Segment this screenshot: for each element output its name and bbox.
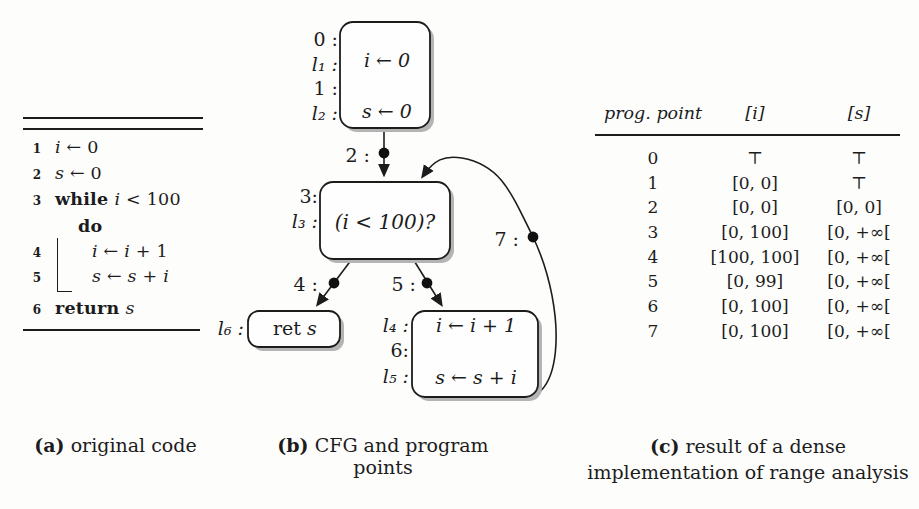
table-col-s: ⊤ ⊤ [0, 0] [0, +∞[ [0, +∞[ [0, +∞[ [0, +… <box>827 146 890 344</box>
prog-point-2-dot <box>379 148 390 159</box>
table-cell: [0, 0] <box>711 195 800 220</box>
table-cell: ⊤ <box>711 146 800 171</box>
prog-point-4-label: 4 : <box>293 273 318 295</box>
table-cell: 4 <box>648 245 659 270</box>
caption-a: (a) original code <box>18 434 213 456</box>
caption-b-text: CFG and program points <box>315 434 489 478</box>
entry-stmt-2: s ← 0 <box>362 100 412 122</box>
caption-a-text: original code <box>71 434 197 456</box>
table-cell: [0, 0] <box>711 171 800 196</box>
table-header-s: [s] <box>848 103 871 123</box>
caption-c-line1: (c) result of a dense <box>578 433 918 459</box>
caption-b: (b) CFG and program points <box>248 434 518 478</box>
caption-c-line2: implementation of range analysis <box>578 459 918 485</box>
ret-keyword: ret <box>273 317 301 339</box>
table-cell: ⊤ <box>827 171 890 196</box>
caption-c: (c) result of a dense implementation of … <box>578 433 918 485</box>
table-cell: [0, 0] <box>827 195 890 220</box>
table-cell: 2 <box>648 195 659 220</box>
table-header-rule <box>595 134 900 136</box>
table-header-prog-point: prog. point <box>604 103 702 123</box>
table-cell: 1 <box>648 171 659 196</box>
table-header-i: [i] <box>745 103 764 123</box>
prog-point-6-label: 6: <box>391 339 410 361</box>
range-analysis-table: prog. point [i] [s] 0 1 2 3 4 5 6 7 ⊤ [0… <box>575 100 919 360</box>
body-stmt-2: s ← s + i <box>435 366 517 388</box>
table-col-prog-point: 0 1 2 3 4 5 6 7 <box>648 146 659 344</box>
prog-point-4-dot <box>329 278 340 289</box>
table-cell: 6 <box>648 294 659 319</box>
body-stmt-1: i ← i + 1 <box>436 314 516 336</box>
table-cell: 7 <box>648 319 659 344</box>
table-cell: [0, +∞[ <box>827 245 890 270</box>
label-l6: l₆ : <box>218 317 244 339</box>
label-l1: l₁ : <box>312 53 338 75</box>
figure-canvas: 1 i ← 0 2 s ← 0 3 while i < 100 do 4 i ←… <box>0 0 919 509</box>
prog-point-5-label: 5 : <box>391 273 416 295</box>
table-cell: [0, 99] <box>711 269 800 294</box>
table-cell: [0, +∞[ <box>827 319 890 344</box>
cond-expr: (i < 100)? <box>335 210 436 234</box>
caption-a-label: (a) <box>34 434 64 456</box>
label-l3: l₃ : <box>292 210 318 232</box>
table-cell: ⊤ <box>827 146 890 171</box>
label-l4: l₄ : <box>383 314 409 336</box>
table-cell: [0, +∞[ <box>827 269 890 294</box>
table-cell: [0, 100] <box>711 220 800 245</box>
ret-var: s <box>307 317 317 339</box>
caption-c-text: result of a dense <box>686 435 847 457</box>
table-cell: 3 <box>648 220 659 245</box>
table-col-i: ⊤ [0, 0] [0, 0] [0, 100] [100, 100] [0, … <box>711 146 800 344</box>
prog-point-5-dot <box>422 278 433 289</box>
table-cell: [0, 100] <box>711 319 800 344</box>
caption-c-label: (c) <box>650 435 680 457</box>
caption-b-label: (b) <box>277 434 308 456</box>
label-l5: l₅ : <box>383 365 409 387</box>
table-cell: [0, 100] <box>711 294 800 319</box>
label-l2: l₂ : <box>312 102 338 124</box>
table-cell: 0 <box>648 146 659 171</box>
prog-point-2-label: 2 : <box>345 144 370 166</box>
prog-point-3-label: 3: <box>300 185 319 207</box>
prog-point-7-dot <box>528 232 539 243</box>
table-cell: [100, 100] <box>711 245 800 270</box>
table-cell: [0, +∞[ <box>827 220 890 245</box>
prog-point-7-label: 7 : <box>494 228 519 250</box>
prog-point-0-label: 0 : <box>313 28 338 50</box>
prog-point-1-label: 1 : <box>313 77 338 99</box>
entry-stmt-1: i ← 0 <box>364 49 410 71</box>
table-cell: 5 <box>648 269 659 294</box>
table-cell: [0, +∞[ <box>827 294 890 319</box>
